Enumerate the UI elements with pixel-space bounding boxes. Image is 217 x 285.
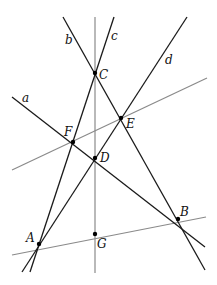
line-d: [22, 17, 187, 272]
point-g: [93, 232, 97, 236]
point-label-b: B: [179, 205, 189, 219]
point-e: [119, 116, 123, 120]
line-label-b: b: [65, 33, 73, 47]
line-c: [30, 17, 114, 272]
point-label-f: F: [63, 125, 73, 139]
point-f: [71, 140, 75, 144]
point-label-a: A: [25, 231, 35, 245]
point-label-g: G: [97, 237, 107, 251]
point-label-d: D: [99, 151, 110, 165]
line-a: [12, 97, 205, 247]
line-label-a: a: [22, 91, 29, 105]
line-label-d: d: [165, 53, 173, 67]
geometric-diagram: a b c d A B C D E F G: [0, 0, 217, 285]
point-label-c: C: [99, 68, 108, 82]
line-label-c: c: [111, 29, 118, 43]
point-label-e: E: [125, 117, 135, 131]
line-ab: [12, 217, 206, 255]
point-c: [93, 71, 97, 75]
line-b: [63, 17, 205, 270]
point-a: [37, 242, 41, 246]
point-d: [93, 156, 97, 160]
